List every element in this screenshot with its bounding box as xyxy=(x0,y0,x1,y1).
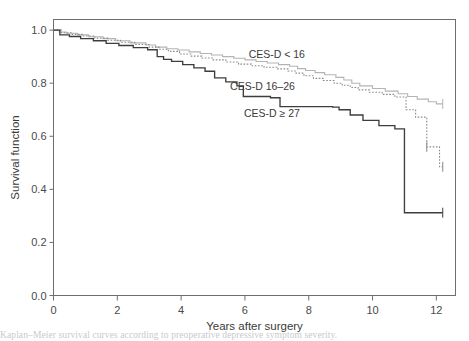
y-tick-label: 0.4 xyxy=(31,183,46,195)
label-cesd-high: CES-D ≥ 27 xyxy=(244,107,300,119)
y-tick-label: 1.0 xyxy=(31,24,46,36)
x-axis-ticks: 024681012 xyxy=(50,296,442,316)
figure-caption: Kaplan–Meier survival curves according t… xyxy=(0,330,469,341)
x-tick-label: 6 xyxy=(242,304,248,316)
y-tick-label: 0.8 xyxy=(31,77,46,89)
y-axis-ticks: 0.00.20.40.60.81.0 xyxy=(31,24,53,301)
plot-frame xyxy=(54,20,456,296)
x-tick-label: 12 xyxy=(430,304,442,316)
y-tick-label: 0.2 xyxy=(31,236,46,248)
x-tick-label: 4 xyxy=(178,304,184,316)
caption-strip: Kaplan–Meier survival curves according t… xyxy=(0,330,469,341)
x-tick-label: 10 xyxy=(366,304,378,316)
curve-cesd-low xyxy=(54,30,443,104)
y-axis-title: Survival function xyxy=(9,115,21,199)
label-cesd-mid: CES-D 16–26 xyxy=(230,80,295,92)
x-tick-label: 2 xyxy=(114,304,120,316)
censoring-marks xyxy=(427,99,443,218)
survival-plot: 0.00.20.40.60.81.0 024681012 CES-D < 16 … xyxy=(0,0,469,341)
survival-curve-figure: 0.00.20.40.60.81.0 024681012 CES-D < 16 … xyxy=(0,0,469,341)
label-cesd-low: CES-D < 16 xyxy=(249,48,305,60)
y-tick-label: 0.6 xyxy=(31,130,46,142)
y-tick-label: 0.0 xyxy=(31,290,46,302)
x-tick-label: 0 xyxy=(50,304,56,316)
x-tick-label: 8 xyxy=(306,304,312,316)
